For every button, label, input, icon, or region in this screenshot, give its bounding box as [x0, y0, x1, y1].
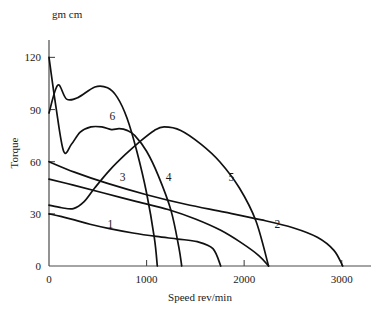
- y-tick-label-60: 60: [30, 156, 42, 168]
- curve-label-4: 4: [166, 171, 172, 183]
- chart-background: [0, 0, 389, 312]
- y-tick-label-30: 30: [30, 208, 42, 220]
- y-axis-title: Torque: [8, 137, 20, 168]
- y-axis-unit-label: gm cm: [52, 8, 83, 20]
- x-tick-label-2000: 2000: [233, 273, 256, 285]
- y-tick-label-120: 120: [25, 51, 42, 63]
- curve-label-6: 6: [110, 110, 116, 122]
- x-tick-label-1000: 1000: [136, 273, 159, 285]
- chart-canvas: 03060901200100020003000 123456 gm cmTorq…: [0, 0, 389, 312]
- y-tick-label-0: 0: [36, 260, 42, 272]
- torque-speed-chart: 03060901200100020003000 123456 gm cmTorq…: [0, 0, 389, 312]
- curve-label-5: 5: [229, 171, 235, 183]
- curve-label-1: 1: [108, 218, 114, 230]
- curve-label-3: 3: [120, 171, 126, 183]
- x-tick-label-3000: 3000: [331, 273, 354, 285]
- x-axis-title: Speed rev/min: [168, 291, 232, 303]
- y-tick-label-90: 90: [30, 104, 42, 116]
- curve-label-2: 2: [274, 218, 280, 230]
- x-tick-label-0: 0: [46, 273, 52, 285]
